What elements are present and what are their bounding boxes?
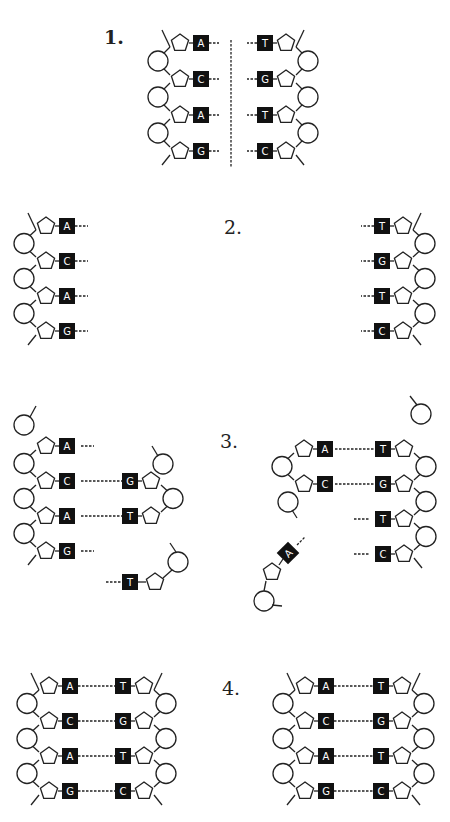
sugar-icon	[277, 142, 294, 158]
sugar-icon	[393, 747, 410, 763]
svg-text:T: T	[261, 38, 269, 49]
base-A: A	[193, 35, 209, 51]
svg-text:G: G	[63, 546, 71, 557]
base-A: A	[193, 107, 209, 123]
sugar-icon	[37, 252, 54, 268]
phosphate-icon	[416, 527, 436, 547]
base-C: C	[374, 323, 390, 339]
svg-text:G: G	[63, 326, 71, 337]
base-C: C	[193, 71, 209, 87]
base-G: G	[193, 143, 209, 159]
phosphate-icon	[416, 457, 436, 477]
svg-text:C: C	[67, 716, 74, 727]
sugar-icon	[394, 217, 411, 233]
sugar-icon	[393, 712, 410, 728]
phosphate-icon	[415, 269, 435, 289]
svg-text:C: C	[262, 146, 269, 157]
sugar-icon	[142, 507, 159, 523]
svg-text:G: G	[261, 74, 269, 85]
phosphate-icon	[14, 454, 34, 474]
base-G: G	[373, 713, 389, 729]
svg-text:G: G	[379, 479, 387, 490]
phosphate-icon	[273, 694, 293, 714]
base-C: C	[373, 783, 389, 799]
phosphate-icon	[416, 492, 436, 512]
sugar-icon	[296, 712, 313, 728]
sugar-icon	[394, 322, 411, 338]
base-T: T	[374, 288, 390, 304]
phosphate-icon	[14, 234, 34, 254]
svg-text:T: T	[261, 110, 269, 121]
svg-text:C: C	[64, 476, 71, 487]
base-T: T	[374, 218, 390, 234]
base-C: C	[115, 783, 131, 799]
sugar-icon	[395, 510, 412, 526]
base-C: C	[317, 476, 333, 492]
base-T: T	[115, 748, 131, 764]
phosphate-icon	[17, 764, 37, 784]
sugar-icon	[395, 440, 412, 456]
svg-text:T: T	[377, 681, 385, 692]
svg-text:T: T	[377, 751, 385, 762]
sugar-icon	[394, 287, 411, 303]
svg-text:G: G	[66, 786, 74, 797]
base-T: T	[375, 511, 391, 527]
svg-text:C: C	[198, 74, 205, 85]
phosphate-icon	[14, 415, 34, 435]
phosphate-icon	[415, 304, 435, 324]
svg-text:A: A	[64, 221, 71, 232]
sugar-icon	[263, 563, 280, 579]
base-G: G	[115, 713, 131, 729]
svg-text:G: G	[126, 476, 134, 487]
base-G: G	[257, 71, 273, 87]
phosphate-icon	[14, 524, 34, 544]
sugar-icon	[171, 70, 188, 86]
phosphate-icon	[148, 87, 168, 107]
sugar-icon	[135, 712, 152, 728]
sugar-icon	[37, 322, 54, 338]
sugar-icon	[37, 287, 54, 303]
sugar-icon	[135, 677, 152, 693]
base-T: T	[257, 107, 273, 123]
phosphate-icon	[273, 764, 293, 784]
svg-text:C: C	[380, 549, 387, 560]
sugar-icon	[37, 507, 54, 523]
base-G: G	[59, 323, 75, 339]
svg-text:G: G	[378, 256, 386, 267]
sugar-icon	[146, 573, 163, 589]
svg-text:T: T	[379, 514, 387, 525]
base-T: T	[373, 748, 389, 764]
sugar-icon	[40, 747, 57, 763]
svg-text:T: T	[126, 577, 134, 588]
base-A: A	[318, 678, 334, 694]
svg-text:A: A	[323, 681, 330, 692]
phosphate-icon	[273, 729, 293, 749]
phosphate-icon	[156, 694, 176, 714]
svg-text:T: T	[379, 444, 387, 455]
base-A: A	[59, 438, 75, 454]
sugar-icon	[142, 472, 159, 488]
phosphate-icon	[156, 764, 176, 784]
base-C: C	[318, 713, 334, 729]
sugar-icon	[277, 70, 294, 86]
base-A: A	[277, 542, 300, 565]
sugar-icon	[37, 217, 54, 233]
phosphate-icon	[156, 729, 176, 749]
svg-text:A: A	[198, 110, 205, 121]
phosphate-icon	[278, 492, 298, 512]
base-C: C	[62, 713, 78, 729]
phosphate-icon	[17, 729, 37, 749]
svg-text:A: A	[323, 751, 330, 762]
phosphate-icon	[298, 123, 318, 143]
phosphate-icon	[415, 234, 435, 254]
sugar-icon	[40, 712, 57, 728]
sugar-icon	[171, 106, 188, 122]
base-T: T	[122, 574, 138, 590]
sugar-icon	[296, 747, 313, 763]
svg-text:T: T	[378, 221, 386, 232]
phosphate-icon	[411, 404, 431, 424]
sugar-icon	[171, 142, 188, 158]
svg-text:A: A	[322, 444, 329, 455]
base-T: T	[115, 678, 131, 694]
base-G: G	[59, 543, 75, 559]
